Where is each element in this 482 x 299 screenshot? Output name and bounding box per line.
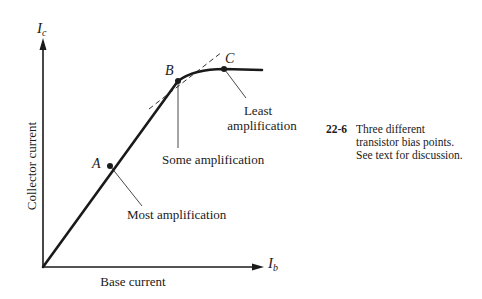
annotation-most-amplification: Most amplification [127,207,227,222]
transistor-bias-diagram: Ic Ib Collector current Base current A B… [0,0,482,299]
leader-line-c [225,70,246,98]
annotation-some-amplification: Some amplification [162,152,265,167]
figure-number: 22-6 [326,123,356,162]
tangent-line-dashed [149,52,222,109]
annotation-least-line2: amplification [227,118,297,133]
y-axis-symbol: Ic [36,20,47,38]
bias-point-c-label: C [225,51,235,66]
bias-point-b-label: B [165,63,174,78]
characteristic-curve [43,69,262,267]
y-axis-title: Collector current [24,121,39,210]
caption-line-1: Three different [356,123,425,135]
figure-caption: 22-6 Three different transistor bias poi… [326,123,482,162]
annotation-least-line1: Least [244,103,273,118]
x-axis-symbol: Ib [267,255,278,273]
x-axis [43,264,264,271]
leader-line-a [111,167,142,206]
y-axis-arrowhead-icon [40,38,47,50]
x-axis-title: Base current [100,274,166,289]
figure-caption-text: Three different transistor bias points. … [356,123,482,162]
x-axis-arrowhead-icon [252,264,264,271]
caption-line-2: transistor bias points. [356,136,454,148]
bias-point-a-label: A [91,156,101,171]
y-axis [40,38,47,268]
caption-line-3: See text for discussion. [356,149,463,161]
